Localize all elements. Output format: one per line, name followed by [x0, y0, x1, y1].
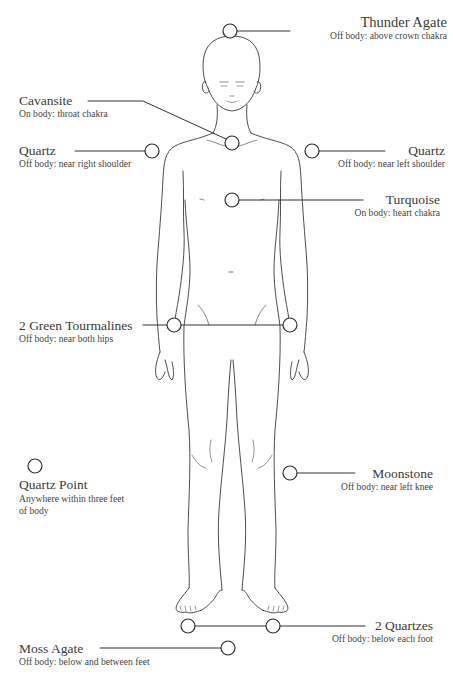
label-quartz-right-shoulder: Quartz Off body: near right shoulder: [19, 143, 131, 170]
marker-cavansite: [225, 136, 239, 150]
label-cavansite: Cavansite On body: throat chakra: [19, 93, 108, 120]
label-moonstone: Moonstone Off body: near left knee: [341, 466, 433, 493]
marker-tourmaline-right-hip: [167, 318, 181, 332]
crystal-name: Thunder Agate: [237, 15, 447, 30]
crystal-position: Off body: near both hips: [19, 333, 133, 345]
crystal-position: Anywhere within three feet: [19, 493, 124, 505]
marker-moonstone: [283, 466, 297, 480]
crystal-position: On body: heart chakra: [354, 207, 440, 219]
label-quartz-left-shoulder: Quartz Off body: near left shoulder: [338, 143, 445, 170]
crystal-name: Cavansite: [19, 93, 108, 108]
crystal-name: 2 Quartzes: [332, 618, 433, 633]
crystal-position: Off body: near left knee: [341, 481, 433, 493]
crystal-position-line2: of body: [19, 505, 124, 517]
marker-quartz-right-foot: [181, 619, 195, 633]
crystal-name: Quartz Point: [19, 477, 124, 492]
crystal-name: Moonstone: [341, 466, 433, 481]
crystal-position: On body: throat chakra: [19, 108, 108, 120]
crystal-name: Turquoise: [354, 192, 440, 207]
marker-quartz-left-foot: [266, 619, 280, 633]
label-green-tourmalines: 2 Green Tourmalines Off body: near both …: [19, 318, 133, 345]
marker-turquoise: [225, 193, 239, 207]
marker-thunder-agate: [223, 24, 237, 38]
crystal-name: Moss Agate: [19, 641, 150, 656]
crystal-name: Quartz: [19, 143, 131, 158]
label-quartz-point: Quartz Point Anywhere within three feet …: [19, 477, 124, 517]
label-moss-agate: Moss Agate Off body: below and between f…: [19, 641, 150, 668]
marker-quartz-right-shoulder: [145, 144, 159, 158]
crystal-position: Off body: near right shoulder: [19, 158, 131, 170]
label-turquoise: Turquoise On body: heart chakra: [354, 192, 440, 219]
marker-tourmaline-left-hip: [283, 318, 297, 332]
crystal-name: 2 Green Tourmalines: [19, 318, 133, 333]
crystal-position: Off body: below each foot: [332, 633, 433, 645]
marker-quartz-point: [28, 459, 42, 473]
crystal-position: Off body: below and between feet: [19, 656, 150, 668]
crystal-name: Quartz: [338, 143, 445, 158]
marker-quartz-left-shoulder: [305, 144, 319, 158]
label-thunder-agate: Thunder Agate Off body: above crown chak…: [237, 15, 453, 42]
crystal-position: Off body: near left shoulder: [338, 158, 445, 170]
crystal-position: Off body: above crown chakra: [237, 30, 447, 42]
label-2-quartzes: 2 Quartzes Off body: below each foot: [332, 618, 433, 645]
marker-moss-agate: [221, 641, 235, 655]
